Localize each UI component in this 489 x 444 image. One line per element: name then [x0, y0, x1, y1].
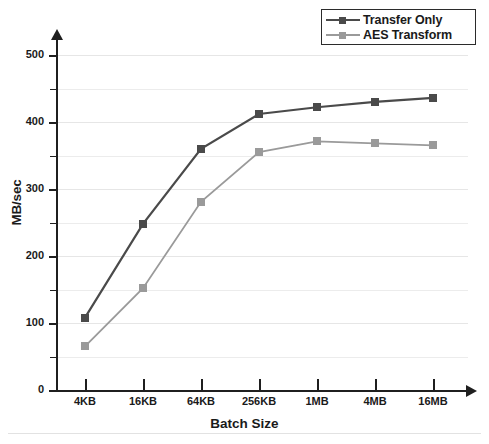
- gridline: [56, 223, 468, 224]
- x-axis-tick-label: 1MB: [287, 395, 347, 407]
- data-point-marker: [255, 110, 263, 118]
- y-axis-tick-label: 400: [10, 115, 44, 127]
- data-point-marker: [371, 139, 379, 147]
- y-axis-tick: [49, 122, 57, 124]
- y-axis-tick: [49, 390, 57, 392]
- data-point-marker: [313, 103, 321, 111]
- plot-area: [56, 40, 478, 392]
- x-axis-tick: [85, 379, 87, 391]
- x-axis-tick-label: 16MB: [403, 395, 463, 407]
- data-point-marker: [81, 314, 89, 322]
- legend-swatch-aes-transform: [326, 30, 360, 40]
- y-axis-tick: [49, 189, 57, 191]
- y-axis-title: MB/sec: [9, 148, 24, 258]
- legend-item-aes-transform: AES Transform: [326, 27, 471, 42]
- x-axis-tick: [433, 379, 435, 391]
- y-axis-tick: [49, 323, 57, 325]
- x-axis-title: Batch Size: [0, 416, 489, 431]
- x-axis-tick: [201, 379, 203, 391]
- data-point-marker: [139, 284, 147, 292]
- x-axis-line: [56, 390, 468, 392]
- y-axis-tick-label: 500: [10, 48, 44, 60]
- x-axis-tick: [317, 379, 319, 391]
- footer-caption: [8, 436, 428, 444]
- y-axis-tick-label: 100: [10, 316, 44, 328]
- x-axis-tick-label: 256KB: [229, 395, 289, 407]
- footer-divider: [8, 433, 481, 434]
- x-axis-tick-label: 16KB: [113, 395, 173, 407]
- gridline: [56, 323, 468, 324]
- y-axis-minor-tick: [50, 223, 57, 225]
- x-axis-tick-label: 4MB: [345, 395, 405, 407]
- gridline: [56, 55, 468, 56]
- data-point-marker: [371, 98, 379, 106]
- y-axis-minor-tick: [50, 156, 57, 158]
- y-axis-tick: [49, 55, 57, 57]
- data-point-marker: [197, 198, 205, 206]
- x-axis-arrow-icon: [466, 385, 477, 397]
- x-axis-tick: [259, 379, 261, 391]
- y-axis-line: [56, 38, 58, 392]
- x-axis-tick: [375, 379, 377, 391]
- y-axis-minor-tick: [50, 357, 57, 359]
- legend-swatch-transfer-only: [326, 15, 360, 25]
- legend-item-transfer-only: Transfer Only: [326, 12, 471, 27]
- gridline: [56, 89, 468, 90]
- gridline: [56, 256, 468, 257]
- data-point-marker: [255, 148, 263, 156]
- legend-label-transfer-only: Transfer Only: [363, 13, 442, 27]
- gridline: [56, 290, 468, 291]
- x-axis-tick-label: 4KB: [55, 395, 115, 407]
- x-axis-tick: [143, 379, 145, 391]
- gridline: [56, 122, 468, 123]
- gridline: [56, 357, 468, 358]
- x-axis-tick-label: 64KB: [171, 395, 231, 407]
- data-point-marker: [139, 220, 147, 228]
- y-axis-tick-label: 0: [10, 383, 44, 395]
- chart-figure: Transfer Only AES Transform 010020030040…: [0, 0, 489, 444]
- data-point-marker: [429, 94, 437, 102]
- data-point-marker: [197, 145, 205, 153]
- legend-label-aes-transform: AES Transform: [363, 28, 452, 42]
- legend-square-marker-icon: [339, 32, 346, 39]
- gridline: [56, 189, 468, 190]
- legend-square-marker-icon: [339, 17, 346, 24]
- data-point-marker: [429, 141, 437, 149]
- data-point-marker: [81, 342, 89, 350]
- chart-legend: Transfer Only AES Transform: [321, 9, 476, 45]
- y-axis-tick: [49, 256, 57, 258]
- y-axis-arrow-icon: [51, 29, 63, 40]
- y-axis-minor-tick: [50, 89, 57, 91]
- data-point-marker: [313, 137, 321, 145]
- y-axis-minor-tick: [50, 290, 57, 292]
